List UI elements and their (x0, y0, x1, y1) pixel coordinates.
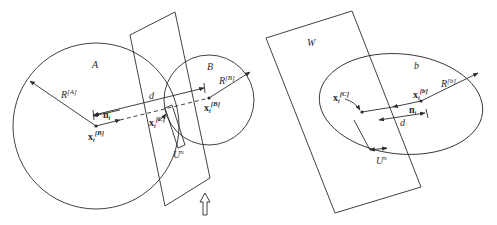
label-contact: xi[C] (149, 115, 166, 129)
label-w: W (307, 37, 317, 48)
label-overlap: Un (376, 154, 387, 166)
center-to-contact (362, 107, 393, 112)
normal-arrow (393, 101, 421, 107)
label-radius-b: R[B] (218, 74, 235, 86)
label-a: A (91, 59, 99, 70)
contact-pointer (345, 99, 360, 110)
right-panel: W b R[b] xi[b] xi[C] ni d Un (266, 11, 488, 213)
tick-right (204, 83, 205, 93)
label-overlap: Un (173, 148, 184, 160)
center-a-dot (94, 124, 97, 127)
label-b: B (207, 61, 213, 72)
label-n: ni (409, 104, 417, 116)
label-radius-a: R[A] (60, 88, 77, 100)
label-b: b (414, 60, 419, 71)
label-contact: xi[C] (333, 90, 350, 104)
label-center-a: xi[B] (88, 129, 105, 143)
contact-diagram: A B R[A] R[B] d ni xi[B] xi[B] xi[C] Un … (0, 0, 497, 225)
label-d: d (400, 117, 406, 128)
label-center-b: xi[B] (204, 100, 221, 114)
plane-slab (130, 12, 210, 206)
wall (266, 11, 421, 213)
left-panel: A B R[A] R[B] d ni xi[B] xi[B] xi[C] Un (13, 12, 254, 215)
overlap-region (165, 105, 185, 148)
label-d: d (149, 90, 155, 101)
tick-d (426, 109, 428, 118)
center-dot (419, 99, 422, 102)
tick-left (93, 110, 94, 120)
radius-a-arrow (30, 81, 96, 126)
contact-dot (360, 110, 363, 113)
up-arrow-icon (200, 193, 210, 215)
particle-b (314, 46, 488, 163)
